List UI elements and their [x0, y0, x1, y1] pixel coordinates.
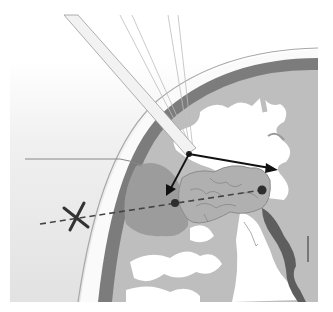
target-dot-left — [171, 199, 179, 207]
target-dot-right — [258, 186, 267, 195]
brain-diagram-svg — [0, 0, 333, 312]
brain-illustration — [0, 0, 333, 312]
